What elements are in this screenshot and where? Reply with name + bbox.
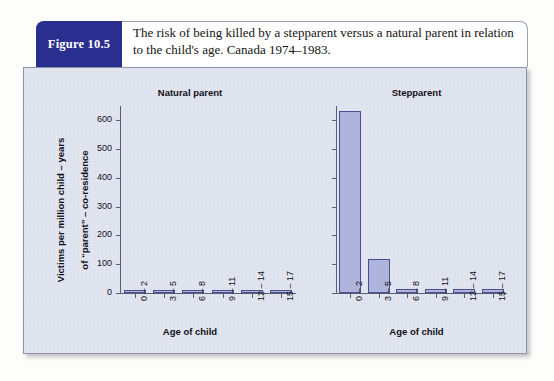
y-axis-tick (116, 293, 120, 294)
y-axis-tick (116, 120, 120, 121)
x-axis-tick (281, 294, 282, 298)
y-axis-tick (332, 178, 336, 179)
y-axis-tick (332, 149, 336, 150)
y-axis-tick-label: 200 (76, 229, 112, 239)
x-axis-tick-label: 0 – 2 (139, 281, 149, 301)
y-axis-line (120, 106, 121, 293)
x-axis-tick (379, 294, 380, 298)
y-axis-tick (116, 178, 120, 179)
figure-caption: The risk of being killed by a stepparent… (133, 24, 519, 58)
x-axis-tick-label: 15 – 17 (497, 271, 507, 301)
bar (339, 111, 361, 293)
x-axis-tick (407, 294, 408, 298)
x-axis-tick (464, 294, 465, 298)
x-axis-tick-label: 9 – 11 (227, 277, 237, 301)
figure-number-tag: Figure 10.5 (36, 21, 122, 67)
y-axis-tick (116, 235, 120, 236)
chart-stepparent: Stepparent 0 – 23 – 56 – 89 – 1112 – 141… (314, 68, 519, 355)
x-axis-tick (350, 294, 351, 298)
x-axis-title-natural-parent: Age of child (76, 326, 304, 337)
chart-natural-parent: Natural parent 01002003004005006000 – 23… (76, 68, 304, 355)
x-axis-tick (493, 294, 494, 298)
x-axis-tick-label: 9 – 11 (440, 277, 450, 301)
y-axis-tick (332, 235, 336, 236)
x-axis-tick (252, 294, 253, 298)
chart-title-natural-parent: Natural parent (76, 87, 304, 98)
y-axis-tick (332, 120, 336, 121)
x-axis-tick-label: 3 – 5 (383, 281, 393, 301)
y-axis-tick-label: 600 (76, 114, 112, 124)
y-axis-tick-label: 100 (76, 258, 112, 268)
x-axis-title-stepparent: Age of child (314, 326, 519, 337)
x-axis-tick-label: 12 – 14 (256, 271, 266, 301)
y-axis-tick-label: 0 (76, 287, 112, 297)
x-axis-tick-label: 3 – 5 (168, 281, 178, 301)
x-axis-tick-label: 6 – 8 (197, 281, 207, 301)
y-axis-tick (116, 149, 120, 150)
y-axis-tick (116, 207, 120, 208)
x-axis-tick-label: 15 – 17 (285, 271, 295, 301)
x-axis-tick-label: 12 – 14 (468, 271, 478, 301)
y-axis-tick (332, 207, 336, 208)
y-axis-title-line1: Victims per million child – years (55, 138, 66, 283)
figure-page: Figure 10.5 The risk of being killed by … (0, 0, 554, 381)
y-axis-line (336, 106, 337, 293)
y-axis-tick (332, 293, 336, 294)
x-axis-tick (193, 294, 194, 298)
x-axis-tick (135, 294, 136, 298)
chart-title-stepparent: Stepparent (314, 87, 519, 98)
y-axis-tick-label: 300 (76, 201, 112, 211)
chart-panel: Victims per million child – years of “pa… (23, 67, 527, 354)
x-axis-tick (436, 294, 437, 298)
x-axis-tick-label: 0 – 2 (354, 281, 364, 301)
y-axis-tick-label: 500 (76, 143, 112, 153)
x-axis-tick-label: 6 – 8 (411, 281, 421, 301)
y-axis-tick (332, 264, 336, 265)
x-axis-tick (164, 294, 165, 298)
x-axis-tick (223, 294, 224, 298)
y-axis-tick-label: 400 (76, 172, 112, 182)
y-axis-tick (116, 264, 120, 265)
